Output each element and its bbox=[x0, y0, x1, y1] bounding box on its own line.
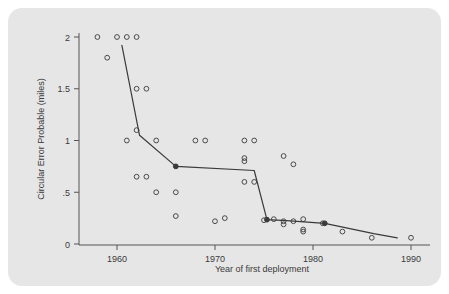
scatter-plot: 0.511.52 Circular Error Probable (miles)… bbox=[0, 0, 449, 294]
data-point bbox=[95, 35, 100, 40]
y-axis-tick-labels: 0.511.52 bbox=[57, 33, 70, 250]
y-axis: 0.511.52 Circular Error Probable (miles) bbox=[36, 33, 79, 250]
data-point bbox=[252, 138, 257, 143]
y-axis-title: Circular Error Probable (miles) bbox=[36, 78, 46, 200]
data-point bbox=[115, 35, 120, 40]
x-tick-label: 1980 bbox=[303, 254, 323, 264]
data-point bbox=[252, 180, 257, 185]
trend-line-vertex bbox=[173, 164, 178, 169]
x-tick-label: 1990 bbox=[401, 254, 421, 264]
data-point bbox=[193, 138, 198, 143]
x-axis-ticks bbox=[117, 245, 411, 250]
x-axis-title: Year of first deployment bbox=[215, 264, 310, 274]
data-point bbox=[154, 138, 159, 143]
data-point bbox=[173, 214, 178, 219]
chart-figure: 0.511.52 Circular Error Probable (miles)… bbox=[0, 0, 449, 294]
y-tick-label: .5 bbox=[62, 188, 70, 198]
data-point bbox=[281, 154, 286, 159]
data-point bbox=[144, 174, 149, 179]
data-point bbox=[154, 190, 159, 195]
data-point bbox=[291, 162, 296, 167]
trend-line-vertex bbox=[322, 221, 327, 226]
data-point bbox=[124, 35, 129, 40]
x-tick-label: 1970 bbox=[205, 254, 225, 264]
data-point bbox=[144, 86, 149, 91]
y-tick-label: 2 bbox=[65, 33, 70, 43]
data-point bbox=[242, 159, 247, 164]
data-point bbox=[369, 235, 374, 240]
x-axis: 1960197019801990 Year of first deploymen… bbox=[79, 245, 430, 274]
y-axis-ticks bbox=[74, 37, 79, 244]
data-point bbox=[222, 216, 227, 221]
data-point bbox=[105, 55, 110, 60]
data-point bbox=[124, 138, 129, 143]
data-point bbox=[340, 229, 345, 234]
x-tick-label: 1960 bbox=[107, 254, 127, 264]
data-point bbox=[242, 138, 247, 143]
data-point bbox=[242, 180, 247, 185]
data-point bbox=[409, 235, 414, 240]
data-point bbox=[203, 138, 208, 143]
data-point bbox=[134, 174, 139, 179]
y-tick-label: 1.5 bbox=[57, 84, 70, 94]
data-point bbox=[134, 35, 139, 40]
y-tick-label: 0 bbox=[65, 240, 70, 250]
y-tick-label: 1 bbox=[65, 136, 70, 146]
trend-line bbox=[122, 45, 397, 238]
data-point bbox=[281, 222, 286, 227]
data-point bbox=[271, 217, 276, 222]
data-point bbox=[134, 86, 139, 91]
data-point bbox=[213, 219, 218, 224]
x-axis-tick-labels: 1960197019801990 bbox=[107, 254, 421, 264]
data-point bbox=[301, 217, 306, 222]
trend-line-vertex bbox=[265, 217, 270, 222]
data-point bbox=[173, 190, 178, 195]
